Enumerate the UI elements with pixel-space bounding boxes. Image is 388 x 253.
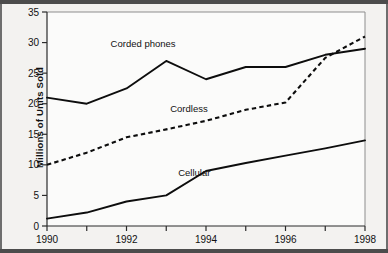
x-axis-tick-label: 1994 bbox=[195, 234, 218, 245]
series-label-corded-phones: Corded phones bbox=[111, 38, 176, 49]
series-label-cordless: Cordless bbox=[170, 103, 208, 114]
x-axis-tick-label: 1992 bbox=[115, 234, 138, 245]
chart-figure: Millions of Units Sold 05101520253035199… bbox=[0, 0, 388, 253]
y-axis-tick-label: 30 bbox=[28, 37, 40, 48]
line-chart-plot: 0510152025303519901992199419961998Corded… bbox=[0, 4, 388, 253]
y-axis-tick-label: 15 bbox=[28, 129, 40, 140]
y-axis-tick-label: 0 bbox=[33, 221, 39, 232]
x-axis-tick-label: 1996 bbox=[274, 234, 297, 245]
y-axis-tick-label: 20 bbox=[28, 98, 40, 109]
y-axis-tick-label: 35 bbox=[28, 7, 40, 18]
x-axis-tick-label: 1990 bbox=[36, 234, 59, 245]
y-axis-tick-label: 25 bbox=[28, 68, 40, 79]
series-label-cellular: Cellular bbox=[178, 167, 210, 178]
y-axis-tick-label: 5 bbox=[33, 190, 39, 201]
y-axis-tick-label: 10 bbox=[28, 159, 40, 170]
plot-background bbox=[47, 12, 365, 226]
x-axis-tick-label: 1998 bbox=[354, 234, 377, 245]
